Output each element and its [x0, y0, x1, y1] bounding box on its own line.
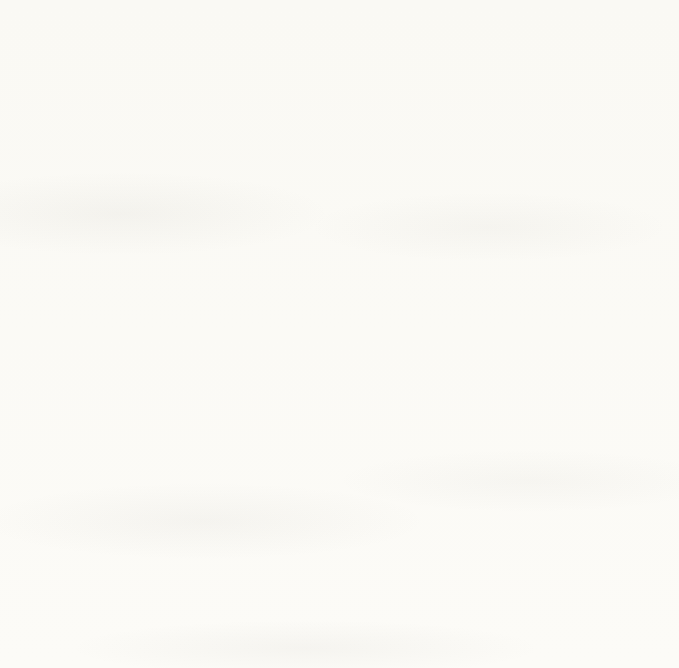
- legend-item-proposed-c: Proposed approach: [221, 489, 276, 494]
- ytick-b-9: 4,5: [342, 33, 362, 39]
- panel-caption-a: ( a ) : House: [0, 300, 340, 312]
- series-line-proposed-d: [391, 436, 631, 562]
- legend-d: Proposed approach Linear: [517, 524, 619, 530]
- xtick-c-2: 3: [219, 616, 233, 622]
- plot-area-b: Proposed approach Linear: [366, 36, 640, 290]
- ytick-d-5: 2,5: [342, 465, 362, 471]
- legend-c: Proposed approach Linear: [221, 489, 276, 512]
- ytick-a-0: 0: [18, 270, 38, 276]
- ytick-d-8: 4: [342, 399, 362, 405]
- xtick-b-3: 4: [623, 291, 637, 297]
- legend-swatch-proposed-icon: [61, 53, 72, 55]
- ytick-a-4: 2: [18, 153, 38, 159]
- ytick-a-5: 2,5: [18, 129, 38, 135]
- xtick-a-0: 1: [59, 291, 73, 297]
- legend-swatch-linear-icon: [377, 66, 388, 68]
- legend-label-linear: Linear: [234, 501, 247, 506]
- series-line-linear-a: [67, 64, 307, 232]
- ytick-c-9: 4,5: [18, 377, 38, 383]
- ytick-a-3: 1,5: [18, 177, 38, 183]
- ytick-d-7: 3,5: [342, 421, 362, 427]
- panel-caption-d: ( d ) : Sim20M: [340, 624, 679, 636]
- ytick-a-8: 4: [18, 57, 38, 63]
- legend-item-proposed-d: Proposed approach: [517, 525, 572, 530]
- legend-swatch-linear-icon: [61, 64, 72, 66]
- ytick-d-3: 1,5: [342, 509, 362, 515]
- ytick-a-9: 4,5: [18, 33, 38, 39]
- series-line-linear-b: [391, 64, 631, 232]
- scan-speck: [663, 196, 665, 198]
- ytick-c-7: 3,5: [18, 421, 38, 427]
- ytick-d-2: 1: [342, 531, 362, 537]
- xaxis-label-b: Number of nodes: [474, 291, 514, 297]
- yaxis-label-d: Speed-Up: [340, 479, 345, 501]
- legend-item-linear-a: Linear: [61, 63, 116, 68]
- ytick-a-7: 3,5: [18, 81, 38, 87]
- chart-panel-c: Proposed approach Linear 4,5 4 3,5 3 2,5…: [0, 352, 340, 668]
- legend-b: Proposed approach Linear: [377, 53, 432, 76]
- ytick-b-5: 2,5: [342, 129, 362, 135]
- legend-item-linear-d: Linear: [583, 525, 609, 530]
- scan-speck: [108, 14, 110, 16]
- yaxis-label-c: Speed-Up: [16, 479, 21, 501]
- ytick-c-1: 0,5: [18, 560, 38, 566]
- ytick-b-6: 3: [342, 105, 362, 111]
- ytick-b-0: 0: [342, 270, 362, 276]
- legend-label-proposed: Proposed approach: [234, 489, 276, 494]
- legend-swatch-proposed-icon: [377, 55, 388, 57]
- ytick-c-8: 4: [18, 399, 38, 405]
- chart-panel-d: Proposed approach Linear 4,5 4 3,5 3 2,5…: [340, 352, 679, 668]
- legend-item-proposed-b: Proposed approach: [377, 53, 432, 58]
- legend-swatch-linear-icon: [221, 502, 232, 504]
- ytick-c-6: 3: [18, 443, 38, 449]
- xtick-a-2: 3: [219, 291, 233, 297]
- xtick-b-0: 1: [383, 291, 397, 297]
- ytick-c-5: 2,5: [18, 465, 38, 471]
- legend-label-linear: Linear: [390, 65, 403, 70]
- ytick-d-1: 0,5: [342, 560, 362, 566]
- xtick-a-3: 4: [299, 291, 313, 297]
- ytick-c-4: 2: [18, 487, 38, 493]
- ytick-b-2: 1: [342, 201, 362, 207]
- ytick-a-1: 0,5: [18, 231, 38, 237]
- legend-label-linear: Linear: [596, 525, 609, 530]
- yaxis-label-a: Speed-Up: [16, 139, 21, 161]
- legend-a: Proposed approach Linear: [61, 51, 116, 74]
- legend-item-linear-b: Linear: [377, 65, 432, 70]
- ytick-d-6: 3: [342, 443, 362, 449]
- ytick-c-2: 1: [18, 531, 38, 537]
- ytick-a-6: 3: [18, 105, 38, 111]
- ytick-a-2: 1: [18, 201, 38, 207]
- panel-caption-c: ( c ) : Sim10M: [0, 624, 340, 636]
- series-line-linear-c: [67, 407, 307, 562]
- legend-label-proposed: Proposed approach: [390, 53, 432, 58]
- series-line-proposed-b: [391, 106, 631, 232]
- chart-panel-b: Proposed approach Linear 4,5 4 3,5 3 2,5…: [340, 0, 679, 352]
- legend-label-proposed: Proposed approach: [74, 51, 116, 56]
- panel-caption-b: ( b ) : KDD: [340, 300, 679, 312]
- plot-lines-d: [367, 381, 639, 614]
- figure-grid: Proposed approach Linear 4,5 4 3,5 3 2,5…: [0, 0, 679, 668]
- plot-area-a: Proposed approach Linear: [42, 36, 316, 290]
- xtick-d-0: 1: [383, 616, 397, 622]
- xtick-d-3: 4: [623, 616, 637, 622]
- series-line-linear-d: [391, 407, 631, 562]
- plot-lines-a: [43, 37, 315, 289]
- scan-speck: [14, 214, 16, 216]
- plot-area-d: Proposed approach Linear: [366, 380, 640, 615]
- xtick-b-2: 3: [543, 291, 557, 297]
- xtick-d-2: 3: [543, 616, 557, 622]
- xaxis-label-a: Number of nodes: [150, 291, 190, 297]
- legend-item-proposed-a: Proposed approach: [61, 51, 116, 56]
- yaxis-label-b: Speed-Up: [340, 139, 345, 161]
- xtick-c-3: 4: [299, 616, 313, 622]
- series-line-proposed-a: [67, 100, 307, 232]
- chart-panel-a: Proposed approach Linear 4,5 4 3,5 3 2,5…: [0, 0, 340, 352]
- legend-item-linear-c: Linear: [221, 501, 276, 506]
- legend-swatch-proposed-icon: [221, 491, 232, 493]
- legend-label-linear: Linear: [74, 63, 87, 68]
- ytick-b-8: 4: [342, 57, 362, 63]
- ytick-b-1: 0,5: [342, 231, 362, 237]
- ytick-d-0: 0: [342, 597, 362, 603]
- ytick-c-3: 1,5: [18, 509, 38, 515]
